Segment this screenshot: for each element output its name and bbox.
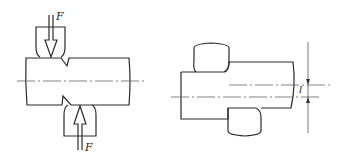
lower-roll [228, 108, 261, 136]
right-panel [171, 42, 330, 136]
diagram-canvas [0, 0, 343, 161]
lower-tool [64, 105, 96, 136]
force-label-bottom: F [85, 142, 93, 153]
notched-shaft [26, 58, 130, 105]
force-label-top: F [56, 11, 64, 22]
dimension-arrow-down-icon [306, 79, 310, 85]
dimension-label: l [299, 85, 302, 95]
left-panel [17, 15, 146, 150]
upper-tool [36, 27, 65, 57]
stepped-shaft [181, 62, 294, 119]
upper-roll [194, 43, 229, 72]
dimension-arrow-up-icon [306, 97, 310, 103]
